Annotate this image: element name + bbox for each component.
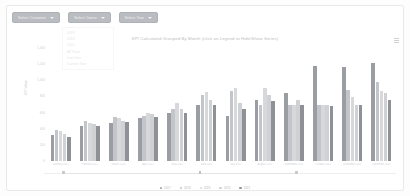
chevron-down-icon (148, 17, 152, 19)
slider-handle-left[interactable] (62, 171, 64, 174)
bar[interactable] (201, 95, 205, 161)
bar[interactable] (88, 123, 92, 161)
bar[interactable] (226, 116, 230, 161)
bar[interactable] (63, 134, 67, 161)
bar[interactable] (92, 124, 96, 161)
y-axis-tick: 1,000 (37, 78, 45, 82)
bar[interactable] (342, 67, 346, 161)
bar-group (309, 48, 338, 161)
bar-group (75, 48, 104, 161)
bar[interactable] (121, 121, 125, 161)
bar[interactable] (317, 105, 321, 162)
legend-color-dot (239, 187, 242, 190)
bar[interactable] (59, 131, 63, 161)
bar[interactable] (263, 88, 267, 161)
bar[interactable] (51, 135, 55, 161)
hamburger-menu-icon[interactable] (394, 38, 399, 43)
bar[interactable] (171, 109, 175, 161)
bar[interactable] (313, 66, 317, 161)
bar[interactable] (267, 95, 271, 161)
bar-group (163, 48, 192, 161)
filter-toolbar: Select Customer Select Owner Select Year (12, 12, 158, 23)
bar[interactable] (325, 105, 329, 161)
bar-group (338, 48, 367, 161)
bar[interactable] (255, 100, 259, 161)
legend-item[interactable]: 2018 (180, 186, 191, 190)
bar-group (221, 48, 250, 161)
x-axis-tick: March 2021 (104, 163, 133, 170)
slider-handle-right[interactable] (295, 171, 297, 174)
bar[interactable] (205, 92, 209, 161)
bar[interactable] (142, 116, 146, 161)
filter-dropdown-customer[interactable]: Select Customer (12, 12, 60, 23)
legend-item[interactable]: 2017 (160, 186, 171, 190)
plot-area (46, 48, 396, 161)
bar[interactable] (380, 91, 384, 161)
bar[interactable] (196, 105, 200, 162)
legend-item[interactable]: 2019 (200, 186, 211, 190)
bar[interactable] (84, 121, 88, 161)
legend-color-dot (200, 187, 203, 190)
bar[interactable] (321, 105, 325, 161)
y-axis-tick: 200 (40, 143, 45, 147)
y-axis-ticks: 1,4001,2001,0008006004002000 (30, 48, 45, 161)
bar[interactable] (238, 103, 242, 161)
bar[interactable] (146, 113, 150, 161)
bar[interactable] (330, 106, 334, 161)
bar[interactable] (284, 93, 288, 161)
filter-dropdown-owner-label: Select Owner (74, 16, 97, 20)
bar[interactable] (388, 100, 392, 161)
bar[interactable] (292, 105, 296, 162)
filter-dropdown-year[interactable]: Select Year (119, 12, 158, 23)
x-axis-tick: May 2021 (163, 163, 192, 170)
x-axis-tick: January 2021 (46, 163, 75, 170)
x-axis-tick: December 2021 (367, 163, 396, 170)
bar[interactable] (351, 97, 355, 161)
slider-selected-range[interactable] (65, 173, 297, 175)
bar[interactable] (346, 90, 350, 161)
bar[interactable] (96, 126, 100, 162)
bar[interactable] (117, 118, 121, 161)
bar[interactable] (271, 101, 275, 161)
chevron-down-icon (50, 17, 54, 19)
bar[interactable] (230, 91, 234, 161)
bar[interactable] (288, 105, 292, 161)
bar[interactable] (125, 122, 129, 161)
bar[interactable] (234, 88, 238, 161)
bar[interactable] (55, 130, 59, 161)
bar[interactable] (109, 123, 113, 161)
bar[interactable] (80, 126, 84, 161)
y-axis-tick: 1,400 (37, 46, 45, 50)
legend-label: 2021 (244, 186, 251, 190)
bar[interactable] (154, 117, 158, 161)
bar[interactable] (167, 113, 171, 161)
bar[interactable] (175, 103, 179, 161)
legend-item[interactable]: 2021 (239, 186, 250, 190)
bar[interactable] (371, 63, 375, 161)
bar[interactable] (213, 105, 217, 161)
bar[interactable] (209, 100, 213, 161)
bar[interactable] (150, 114, 154, 161)
bar-group (367, 48, 396, 161)
x-axis-tick: June 2021 (192, 163, 221, 170)
bar-group (104, 48, 133, 161)
bar[interactable] (376, 82, 380, 161)
bar[interactable] (113, 117, 117, 161)
legend-item[interactable]: 2020 (219, 186, 230, 190)
bar[interactable] (67, 137, 71, 161)
bar[interactable] (138, 118, 142, 161)
bar[interactable] (184, 113, 188, 161)
range-slider[interactable] (44, 172, 396, 175)
bar[interactable] (355, 105, 359, 162)
bar[interactable] (384, 93, 388, 161)
bar[interactable] (300, 105, 304, 162)
bar-group (279, 48, 308, 161)
bar[interactable] (259, 105, 263, 162)
bar[interactable] (242, 109, 246, 161)
bar[interactable] (359, 105, 363, 161)
bar[interactable] (296, 100, 300, 161)
filter-dropdown-owner[interactable]: Select Owner (68, 12, 111, 23)
bar[interactable] (180, 109, 184, 161)
legend-label: 2019 (204, 186, 211, 190)
legend-color-dot (219, 187, 222, 190)
